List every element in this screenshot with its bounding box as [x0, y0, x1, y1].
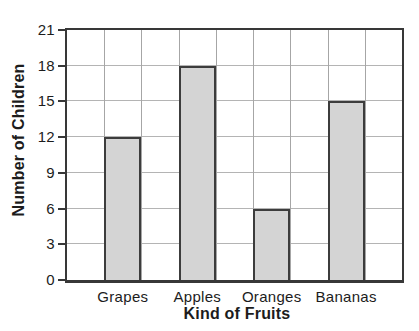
x-category-label-bananas: Bananas — [315, 288, 376, 305]
y-tick-label-3: 3 — [19, 235, 55, 252]
y-tick-label-18: 18 — [19, 57, 55, 74]
y-tick-mark-21 — [58, 29, 67, 31]
plot-area — [65, 28, 404, 283]
x-axis-title: Kind of Fruits — [184, 305, 291, 323]
y-tick-mark-12 — [58, 136, 67, 138]
bars-layer — [67, 30, 402, 280]
bar-chart-figure: Number of Children Kind of Fruits 211815… — [0, 0, 419, 331]
bar-oranges — [253, 209, 290, 280]
y-tick-label-21: 21 — [19, 21, 55, 38]
x-category-label-apples: Apples — [173, 288, 221, 305]
y-tick-mark-18 — [58, 65, 67, 67]
y-tick-mark-6 — [58, 208, 67, 210]
y-tick-label-0: 0 — [19, 271, 55, 288]
x-category-label-grapes: Grapes — [97, 288, 148, 305]
bar-bananas — [328, 101, 365, 280]
bar-grapes — [104, 137, 141, 280]
bar-apples — [179, 66, 216, 280]
x-category-label-oranges: Oranges — [242, 288, 302, 305]
y-tick-label-12: 12 — [19, 128, 55, 145]
y-tick-mark-15 — [58, 100, 67, 102]
y-tick-mark-9 — [58, 172, 67, 174]
y-tick-label-6: 6 — [19, 200, 55, 217]
y-tick-mark-3 — [58, 243, 67, 245]
y-tick-label-15: 15 — [19, 93, 55, 110]
y-tick-label-9: 9 — [19, 164, 55, 181]
y-tick-mark-0 — [58, 279, 67, 281]
